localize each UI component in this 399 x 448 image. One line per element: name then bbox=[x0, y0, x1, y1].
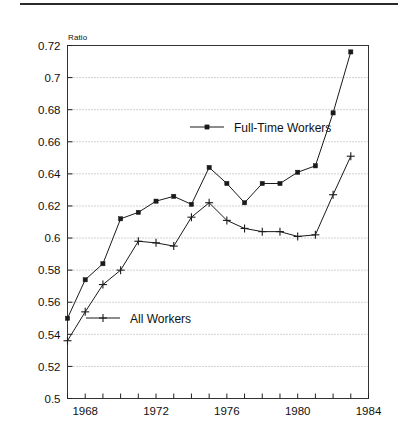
data-point-marker-square bbox=[313, 164, 317, 168]
data-point-marker-square bbox=[296, 170, 300, 174]
legend-item: Full-Time Workers bbox=[190, 121, 331, 135]
chart-page: Ratio 0.50.520.540.560.580.60.620.640.66… bbox=[0, 0, 399, 448]
data-point-marker-square bbox=[154, 199, 158, 203]
y-tick-label: 0.66 bbox=[38, 136, 60, 148]
x-tick-label: 1984 bbox=[356, 405, 382, 417]
data-point-marker-square bbox=[101, 262, 105, 266]
y-tick-label: 0.52 bbox=[38, 361, 60, 373]
plot-frame bbox=[68, 46, 369, 399]
chart-canvas: 0.50.520.540.560.580.60.620.640.660.680.… bbox=[0, 0, 399, 448]
y-tick-label: 0.68 bbox=[38, 104, 60, 116]
line-chart: Ratio 0.50.520.540.560.580.60.620.640.66… bbox=[0, 0, 399, 448]
y-tick-label: 0.56 bbox=[38, 296, 60, 308]
data-point-marker-square bbox=[136, 210, 140, 214]
data-point-marker-square bbox=[119, 217, 123, 221]
data-point-marker-square bbox=[205, 125, 209, 129]
y-tick-label: 0.62 bbox=[38, 200, 60, 212]
y-tick-label: 0.5 bbox=[45, 393, 61, 405]
data-point-marker-square bbox=[242, 201, 246, 205]
data-point-marker-square bbox=[83, 278, 87, 282]
legend-label: Full-Time Workers bbox=[234, 121, 331, 135]
y-tick-label: 0.7 bbox=[45, 72, 61, 84]
data-point-marker-square bbox=[349, 50, 353, 54]
plot-border bbox=[68, 46, 369, 399]
data-point-marker-square bbox=[65, 316, 69, 320]
x-axis-ticks: 19681972197619801984 bbox=[68, 394, 382, 417]
chart-legend: Full-Time WorkersAll Workers bbox=[86, 121, 331, 326]
y-tick-label: 0.72 bbox=[38, 40, 60, 52]
series-line bbox=[68, 156, 351, 341]
data-point-marker-square bbox=[189, 202, 193, 206]
data-point-marker-square bbox=[260, 181, 264, 185]
data-point-marker-square bbox=[331, 111, 335, 115]
data-point-marker-square bbox=[207, 165, 211, 169]
y-tick-label: 0.64 bbox=[38, 168, 61, 180]
legend-item: All Workers bbox=[86, 312, 191, 326]
y-tick-label: 0.6 bbox=[45, 232, 61, 244]
x-tick-label: 1980 bbox=[285, 405, 311, 417]
legend-label: All Workers bbox=[130, 312, 191, 326]
x-tick-label: 1972 bbox=[143, 405, 169, 417]
y-tick-label: 0.58 bbox=[38, 264, 60, 276]
y-tick-label: 0.54 bbox=[38, 329, 61, 341]
x-tick-label: 1976 bbox=[214, 405, 240, 417]
x-tick-label: 1968 bbox=[72, 405, 98, 417]
data-point-marker-square bbox=[172, 194, 176, 198]
data-point-marker-square bbox=[278, 181, 282, 185]
data-point-marker-square bbox=[225, 181, 229, 185]
data-series-layer bbox=[64, 50, 355, 345]
